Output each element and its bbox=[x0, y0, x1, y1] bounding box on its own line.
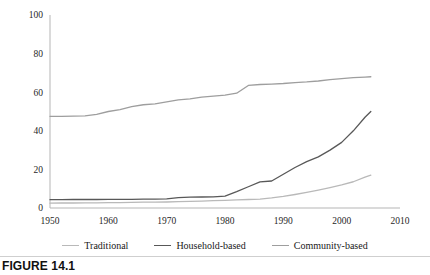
figure-container: 020406080100 195019601970198019902000201… bbox=[0, 0, 430, 275]
legend-item-label: Community-based bbox=[294, 240, 368, 251]
legend-item-household-based[interactable]: Household-based bbox=[154, 240, 245, 251]
y-tick-label: 80 bbox=[34, 49, 44, 59]
x-tick-label: 1970 bbox=[157, 216, 176, 226]
x-tick-label: 1990 bbox=[274, 216, 293, 226]
legend-item-label: Traditional bbox=[84, 240, 128, 251]
chart-legend: TraditionalHousehold-basedCommunity-base… bbox=[0, 236, 430, 254]
legend-line-swatch-icon bbox=[272, 245, 289, 246]
series-line-community-based bbox=[50, 77, 371, 117]
x-tick-label: 2010 bbox=[391, 216, 410, 226]
x-tick-label: 1950 bbox=[41, 216, 60, 226]
series-line-household-based bbox=[50, 112, 371, 200]
y-tick-label: 100 bbox=[29, 10, 44, 20]
y-tick-label: 40 bbox=[34, 126, 44, 136]
x-axis-tick-labels: 1950196019701980199020002010 bbox=[41, 216, 410, 226]
legend-item-traditional[interactable]: Traditional bbox=[62, 240, 128, 251]
chart-canvas: 020406080100 195019601970198019902000201… bbox=[0, 0, 430, 232]
y-tick-label: 0 bbox=[38, 203, 43, 213]
series-lines bbox=[50, 77, 371, 203]
y-axis-tick-labels: 020406080100 bbox=[29, 10, 44, 213]
legend-item-community-based[interactable]: Community-based bbox=[272, 240, 368, 251]
x-tick-label: 1960 bbox=[99, 216, 118, 226]
x-tick-label: 1980 bbox=[216, 216, 235, 226]
legend-item-label: Household-based bbox=[176, 240, 245, 251]
x-tick-label: 2000 bbox=[332, 216, 351, 226]
legend-line-swatch-icon bbox=[62, 245, 79, 246]
y-tick-label: 60 bbox=[34, 88, 44, 98]
caption-divider bbox=[0, 256, 430, 257]
legend-line-swatch-icon bbox=[154, 245, 171, 246]
figure-caption: FIGURE 14.1 bbox=[2, 259, 75, 273]
line-chart: 020406080100 195019601970198019902000201… bbox=[0, 0, 430, 232]
y-tick-label: 20 bbox=[34, 165, 44, 175]
